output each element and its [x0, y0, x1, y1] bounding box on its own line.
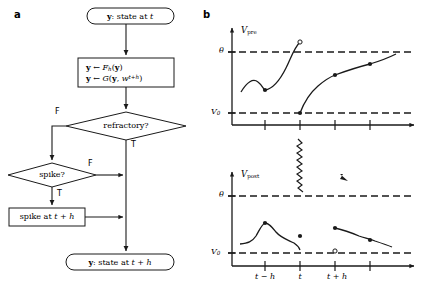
v-pre-trace-rise [241, 42, 300, 92]
v-post-markers [263, 221, 372, 253]
branch-label-refractory-false: F [55, 107, 60, 116]
v-post-trace-decay [240, 223, 300, 250]
node-update-line1: y ← Fh(y) [86, 62, 123, 73]
node-emit-label: spike at t + h [20, 212, 75, 222]
edge-refractory-false [52, 126, 66, 160]
v-post-v0-label: V0 [211, 247, 220, 256]
v-pre-v0-label: V0 [211, 107, 220, 116]
v-pre-marker-open [298, 40, 302, 44]
v-post-marker-filled [298, 234, 302, 238]
v-post-y-axis-label: Vpost [241, 169, 259, 179]
v-pre-marker-filled [263, 88, 267, 92]
v-post-marker-open [333, 249, 337, 253]
v-post-xtick-label-1: t [298, 272, 301, 281]
node-start-label: y: state at t [107, 11, 153, 22]
figure-vector-layer [0, 0, 421, 286]
branch-label-refractory-true: T [131, 140, 136, 149]
v-post-xtick-label-0: t − h [255, 272, 275, 281]
v-pre-marker-filled [333, 73, 337, 77]
v-post-marker-filled [368, 238, 372, 242]
v-pre-trace-after-reset [300, 54, 396, 113]
v-pre-marker-filled [298, 111, 302, 115]
node-end-label: y: state at t + h [88, 257, 151, 268]
v-post-trace-after-jump [335, 228, 392, 247]
flowchart-shapes [8, 8, 186, 270]
node-spike-label: spike? [39, 170, 65, 180]
v-post-xtick-label-2: t + h [327, 272, 347, 281]
node-update-line2: y ← G(y, wt+h) [86, 73, 142, 84]
spike-transmission-arrow [297, 139, 348, 192]
v-post-marker-filled [263, 221, 267, 225]
branch-label-spike-true: T [57, 189, 62, 198]
v-pre-theta-label: θ [219, 46, 224, 55]
branch-label-spike-false: F [88, 159, 93, 168]
v-post-marker-filled [333, 226, 337, 230]
figure-canvas: a b [0, 0, 421, 286]
v-pre-marker-filled [368, 62, 372, 66]
v-pre-markers [263, 40, 372, 115]
chart-v-post [228, 172, 414, 271]
chart-v-pre [228, 28, 414, 130]
node-refractory-label: refractory? [103, 121, 148, 131]
v-post-theta-label: θ [219, 190, 224, 199]
v-pre-y-axis-label: Vpre [241, 25, 257, 35]
